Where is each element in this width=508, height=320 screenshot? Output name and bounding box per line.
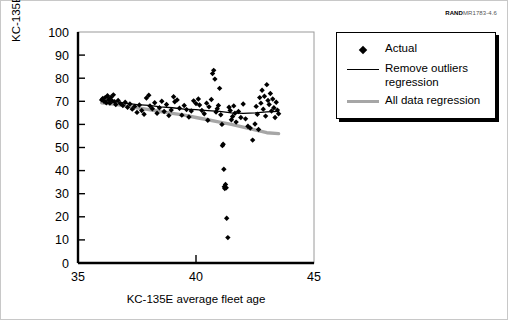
data-point: [241, 101, 246, 106]
thin-line-icon: [343, 62, 383, 77]
data-point: [231, 103, 236, 108]
data-point: [212, 76, 217, 81]
y-tick-label: 70: [55, 95, 69, 109]
data-point: [270, 96, 275, 101]
actual-data-markers: [99, 68, 281, 241]
data-point: [265, 98, 270, 103]
data-point: [196, 96, 201, 101]
figure-container: RANDMR1783-4.6 KC-135E fully mission cap…: [0, 0, 508, 320]
legend-label-actual: Actual: [383, 42, 417, 56]
data-point: [217, 86, 222, 91]
y-tick-label: 60: [55, 118, 69, 132]
data-point: [171, 94, 176, 99]
y-tick-label: 100: [48, 26, 69, 40]
data-point: [274, 100, 279, 105]
data-point: [264, 82, 269, 87]
legend-item-remove-outliers: Remove outliersregression: [343, 62, 487, 89]
y-tick-label: 10: [55, 233, 69, 247]
diamond-marker-icon: [343, 42, 383, 57]
data-point: [243, 116, 248, 121]
y-tick-label: 90: [55, 49, 69, 63]
y-tick-label: 30: [55, 187, 69, 201]
data-point: [272, 115, 277, 120]
data-point: [177, 106, 182, 111]
legend-item-actual: Actual: [343, 42, 487, 57]
legend-label-remove-outliers-line1: Remove outliers: [385, 62, 468, 74]
x-axis-tick-labels: 354045: [71, 270, 321, 284]
data-point: [268, 91, 273, 96]
data-point: [152, 100, 157, 105]
legend-label-remove-outliers-line2: regression: [385, 76, 439, 88]
y-tick-label: 80: [55, 72, 69, 86]
data-point: [224, 215, 229, 220]
data-point: [258, 100, 263, 105]
x-tick-label: 40: [189, 270, 203, 284]
y-tick-label: 0: [62, 257, 69, 271]
data-point: [252, 121, 257, 126]
data-point: [159, 99, 164, 104]
legend-item-all-data: All data regression: [343, 94, 487, 109]
data-point: [253, 104, 258, 109]
data-point: [250, 137, 255, 142]
y-tick-label: 40: [55, 164, 69, 178]
data-point: [184, 107, 189, 112]
data-point: [182, 103, 187, 108]
legend-label-all-data: All data regression: [383, 94, 480, 108]
data-point: [134, 110, 139, 115]
y-tick-label: 20: [55, 210, 69, 224]
data-point: [259, 88, 264, 93]
data-point: [266, 102, 271, 107]
legend-label-remove-outliers: Remove outliersregression: [383, 62, 468, 89]
data-point: [221, 167, 226, 172]
data-point: [209, 97, 214, 102]
thick-gray-line-icon: [343, 94, 383, 109]
data-point: [238, 115, 243, 120]
data-point: [263, 113, 268, 118]
y-tick-label: 50: [55, 141, 69, 155]
x-tick-label: 35: [71, 270, 85, 284]
x-tick-label: 45: [307, 270, 321, 284]
data-point: [257, 95, 262, 100]
data-point: [225, 235, 230, 240]
plot-frame: [78, 32, 314, 263]
y-axis-tick-labels: 0102030405060708090100: [48, 26, 69, 271]
chart-legend: Actual Remove outliersregression All dat…: [336, 32, 496, 119]
data-point: [262, 94, 267, 99]
data-point: [218, 112, 223, 117]
data-point: [164, 102, 169, 107]
data-point: [261, 106, 266, 111]
